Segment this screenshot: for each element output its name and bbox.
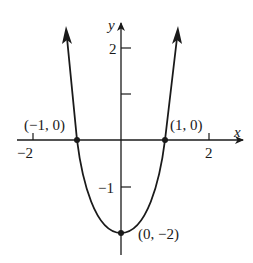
y-tick-label-neg1: −1 xyxy=(98,180,114,196)
x-tick-label-neg2: −2 xyxy=(17,145,33,161)
point-label-1-0: (1, 0) xyxy=(170,117,203,134)
point-label-0-neg2: (0, −2) xyxy=(138,226,179,243)
point-neg1-0 xyxy=(74,137,80,143)
y-tick-label-2: 2 xyxy=(109,41,117,57)
y-axis-label: y xyxy=(106,17,115,33)
x-tick-label-2: 2 xyxy=(205,145,213,161)
parabola-curve xyxy=(67,38,177,233)
point-0-neg2 xyxy=(118,230,124,236)
x-axis-label: x xyxy=(233,124,241,140)
point-label-neg1-0: (−1, 0) xyxy=(24,117,65,134)
parabola-graph: y x 2 −1 −2 2 (−1, 0) (1, 0) (0, −2) xyxy=(0,0,253,263)
point-1-0 xyxy=(162,137,168,143)
